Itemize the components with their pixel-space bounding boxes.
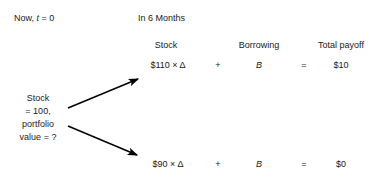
figure-canvas: Now, t = 0 In 6 Months Stock Borrowing T… — [0, 0, 383, 181]
branch-arrows — [0, 0, 383, 181]
down-branch-arrow — [68, 126, 137, 155]
up-branch-arrow — [68, 79, 138, 108]
